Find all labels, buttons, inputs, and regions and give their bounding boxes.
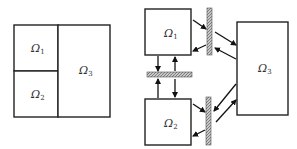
interface-bar-1-3 <box>207 8 212 55</box>
arrow-interface23-to-omega2 <box>193 130 205 136</box>
domain-decomposition-diagram: Ω1 Ω2 Ω3 Ω1 Ω2 Ω3 <box>0 0 297 149</box>
arrow-omega3-to-interface13 <box>215 48 236 59</box>
arrow-interface13-to-omega3 <box>215 32 236 45</box>
arrow-omega1-to-interface13 <box>193 20 206 29</box>
arrow-interface13-to-omega1 <box>193 45 206 51</box>
interface-bar-1-2 <box>147 72 192 77</box>
arrow-omega2-to-interface23 <box>193 104 205 112</box>
right-figure: Ω1 Ω2 Ω3 <box>145 8 288 145</box>
interface-bar-2-3 <box>206 97 211 145</box>
arrow-omega3-to-interface23 <box>214 84 236 111</box>
arrow-interface23-to-omega3 <box>216 100 236 122</box>
left-figure: Ω1 Ω2 Ω3 <box>14 25 110 117</box>
